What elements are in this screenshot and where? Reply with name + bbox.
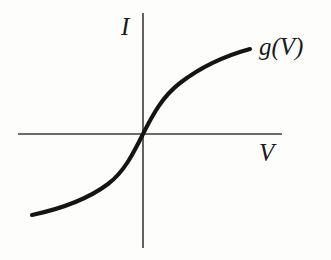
curve-label: g(V) [259,34,303,59]
y-axis-label: I [121,14,129,39]
iv-characteristic-figure: I V g(V) [0,0,331,260]
sigmoid-curve [32,49,250,215]
x-axis-label: V [259,140,274,165]
